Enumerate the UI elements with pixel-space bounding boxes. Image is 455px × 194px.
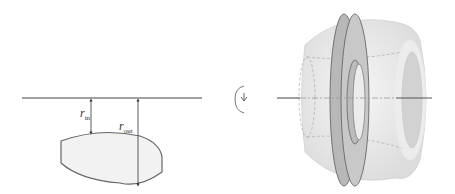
solid-of-revolution: [277, 14, 432, 186]
rotation-arrow-icon: [235, 86, 247, 113]
right-hole: [402, 52, 422, 148]
r-out-label: rout: [119, 119, 133, 135]
r-in-label: rin: [80, 106, 91, 122]
washer-hole: [353, 64, 365, 140]
lens-cross-section: [61, 132, 162, 184]
diagram-canvas: rin rout: [0, 0, 455, 194]
cross-section: rin rout: [22, 98, 202, 185]
